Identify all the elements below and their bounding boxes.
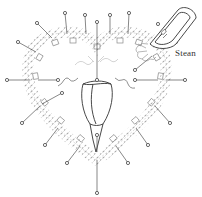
- steam-label: Stean: [175, 48, 196, 58]
- diagram-canvas: [0, 0, 202, 197]
- lace-heart-diagram: Stean: [0, 0, 202, 197]
- steam-iron-icon: [150, 8, 196, 49]
